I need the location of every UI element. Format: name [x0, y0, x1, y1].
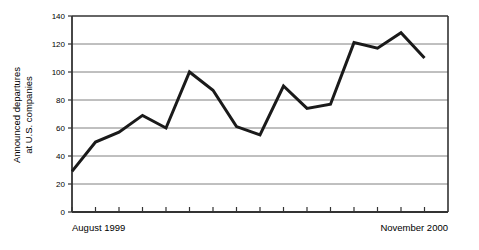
y-axis-label-line1: Announced departures — [11, 67, 22, 163]
y-tick-label: 120 — [52, 40, 66, 49]
chart-container: Announced departures at U.S. companies 0… — [0, 0, 479, 250]
line-chart: Announced departures at U.S. companies 0… — [0, 0, 479, 250]
y-tick-label: 100 — [52, 68, 66, 77]
y-tick-label: 80 — [56, 96, 65, 105]
x-axis-start-label: August 1999 — [72, 222, 125, 233]
y-axis-label: Announced departures at U.S. companies — [11, 67, 34, 163]
x-axis-end-label: November 2000 — [380, 222, 448, 233]
y-tick-label: 0 — [61, 208, 66, 217]
y-tick-label: 20 — [56, 180, 65, 189]
y-tick-label: 40 — [56, 152, 65, 161]
y-axis-label-line2: at U.S. companies — [23, 76, 34, 154]
y-tick-label: 140 — [52, 12, 66, 21]
y-tick-label: 60 — [56, 124, 65, 133]
